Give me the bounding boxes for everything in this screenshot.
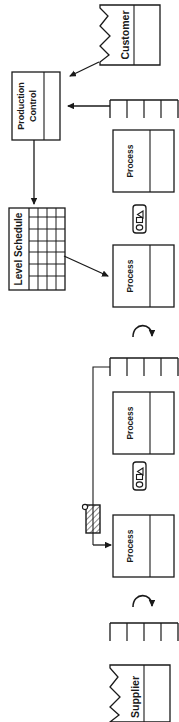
process-box-4: Process bbox=[113, 515, 174, 577]
process-box-2: Process bbox=[113, 245, 174, 307]
physical-pull-arrow-2 bbox=[133, 596, 152, 607]
supplier-label: Supplier bbox=[129, 676, 141, 718]
arrow-level-schedule-to-process bbox=[64, 256, 108, 276]
process-4-label: Process bbox=[125, 529, 135, 562]
production-control-label-line1: Production bbox=[16, 82, 26, 130]
process-2-label: Process bbox=[125, 259, 135, 292]
supermarket-middle bbox=[110, 358, 178, 376]
level-schedule-label: Level Schedule bbox=[13, 212, 24, 285]
process-3-label: Process bbox=[125, 406, 135, 439]
customer-box: Customer bbox=[100, 5, 160, 65]
arrow-customer-to-production-control bbox=[70, 62, 99, 76]
production-control-label-line2: Control bbox=[28, 90, 38, 122]
process-1-label: Process bbox=[125, 144, 135, 177]
process-box-1: Process bbox=[113, 130, 174, 192]
supermarket-top bbox=[110, 100, 178, 118]
physical-pull-arrow-1 bbox=[133, 326, 152, 337]
production-control-box: Production Control bbox=[12, 72, 60, 140]
supermarket-bottom bbox=[110, 623, 178, 641]
sequenced-pull-ball-2 bbox=[133, 462, 146, 490]
vsm-canvas: Customer Production Control Process bbox=[0, 0, 179, 722]
supplier-box: Supplier bbox=[110, 665, 170, 722]
kanban-post bbox=[82, 504, 100, 533]
customer-label: Customer bbox=[119, 10, 131, 59]
level-schedule-box: Level Schedule bbox=[9, 208, 65, 290]
sequenced-pull-ball-1 bbox=[133, 205, 146, 233]
value-stream-map-diagram: Customer Production Control Process bbox=[0, 0, 179, 722]
process-box-3: Process bbox=[113, 392, 174, 454]
